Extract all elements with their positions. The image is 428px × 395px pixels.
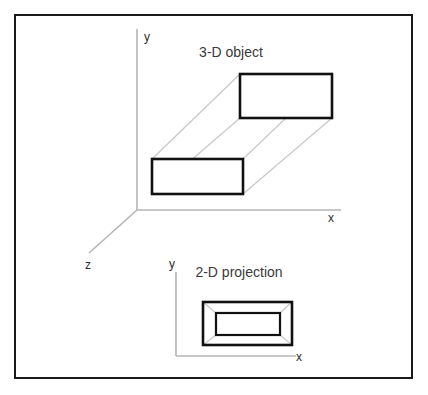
figure-container: y x z 3-D object y x 2-D pro bbox=[0, 0, 428, 395]
axis-label-3d-y: y bbox=[144, 30, 150, 44]
axis-label-3d-x: x bbox=[328, 211, 334, 225]
object-front-face bbox=[152, 159, 243, 194]
axis-label-3d-z: z bbox=[85, 258, 91, 272]
axis-label-2d-y: y bbox=[169, 257, 175, 271]
axis-label-2d-x: x bbox=[296, 350, 302, 364]
projection-diagram: y x z 3-D object y x 2-D pro bbox=[0, 0, 428, 395]
object-back-face bbox=[240, 74, 332, 118]
caption-3d-object: 3-D object bbox=[199, 44, 263, 60]
caption-2d-projection: 2-D projection bbox=[195, 264, 282, 280]
